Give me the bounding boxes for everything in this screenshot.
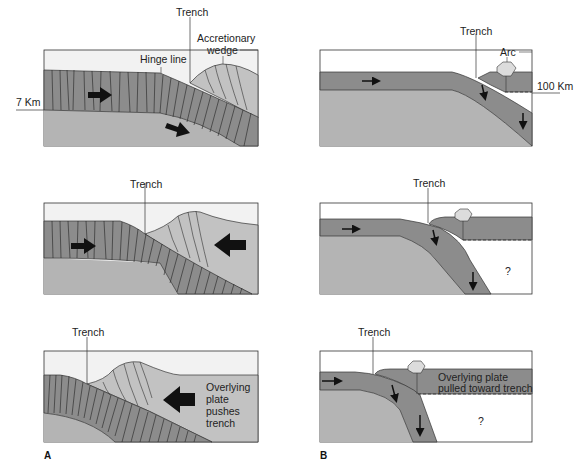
- panel-a-row1: Trench Hinge line Accretionary wedge 7 K…: [16, 6, 258, 146]
- label-wedge: wedge: [206, 44, 238, 56]
- panel-b-row2: ? Trench: [320, 177, 532, 294]
- label-arc: Arc: [500, 46, 516, 58]
- panel-label-b: B: [320, 450, 327, 461]
- label-overlying-a3: Overlying: [206, 381, 251, 393]
- label-trench-a2: Trench: [130, 178, 162, 190]
- label-depth-100km: 100 Km: [537, 80, 573, 92]
- label-trench-a1: Trench: [176, 6, 208, 18]
- label-trench-a3: Trench: [72, 326, 104, 338]
- diagram-canvas: Trench Hinge line Accretionary wedge 7 K…: [0, 0, 581, 464]
- panel-a-row2: Trench: [44, 178, 258, 294]
- label-depth-7km: 7 Km: [16, 96, 41, 108]
- panel-b-row3: Overlying plate pulled toward trench ? T…: [320, 326, 533, 461]
- label-plate-a3: plate: [206, 393, 229, 405]
- label-trench-b2: Trench: [413, 177, 445, 189]
- label-accretionary: Accretionary: [197, 32, 256, 44]
- label-pushes-a3: pushes: [206, 405, 240, 417]
- panel-b-row1: Trench Arc 100 Km: [320, 25, 573, 146]
- label-unknown-b3: ?: [478, 415, 484, 427]
- label-unknown-b2: ?: [505, 265, 511, 277]
- label-trench-word-a3: trench: [206, 417, 235, 429]
- label-pulled-toward-trench-b3: pulled toward trench: [438, 382, 533, 394]
- label-hinge-line: Hinge line: [140, 53, 187, 65]
- label-trench-b1: Trench: [460, 25, 492, 37]
- label-trench-b3: Trench: [358, 326, 390, 338]
- panel-label-a: A: [44, 450, 51, 461]
- panel-a-row3: Overlying plate pushes trench Trench A: [44, 326, 258, 461]
